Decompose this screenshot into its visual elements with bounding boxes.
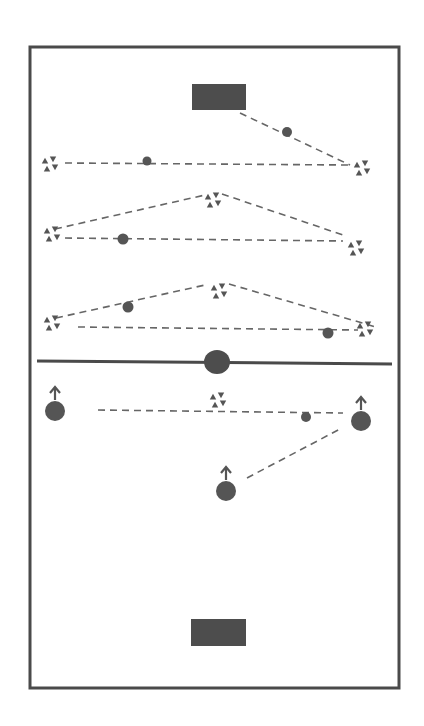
top-goal bbox=[192, 84, 246, 110]
ball-icon bbox=[118, 234, 129, 245]
ball-icon bbox=[123, 302, 134, 313]
bottom-goal bbox=[191, 619, 246, 646]
drill-diagram bbox=[0, 0, 424, 726]
ball-icon bbox=[282, 127, 292, 137]
ball-icon bbox=[301, 412, 311, 422]
ball-icon bbox=[143, 157, 152, 166]
ball-icon bbox=[323, 328, 334, 339]
center-spot bbox=[204, 350, 230, 374]
